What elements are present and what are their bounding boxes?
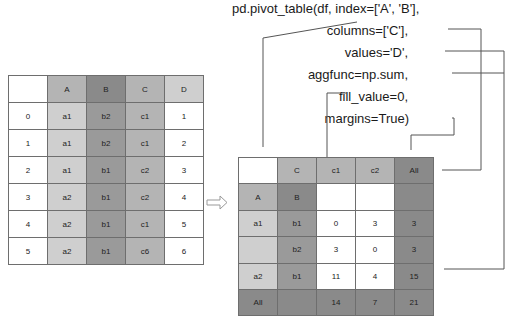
header-cell: All xyxy=(395,158,434,184)
cell xyxy=(395,184,434,210)
cell xyxy=(278,289,317,315)
cell: b1 xyxy=(278,210,317,236)
margins-row: All 14 7 21 xyxy=(239,289,434,315)
header-cell: c1 xyxy=(317,158,356,184)
cell: 11 xyxy=(317,263,356,289)
cell: 15 xyxy=(395,263,434,289)
cell: 21 xyxy=(395,289,434,315)
table-row: a1 b1 0 3 3 xyxy=(239,210,434,236)
cell xyxy=(239,237,278,263)
cell: a2 xyxy=(239,263,278,289)
hollow-right-arrow-icon xyxy=(207,196,227,209)
cell: a1 xyxy=(239,210,278,236)
header-cell: C xyxy=(278,158,317,184)
index-name-row: A B xyxy=(239,184,434,210)
cell: b2 xyxy=(278,237,317,263)
cell: All xyxy=(239,289,278,315)
table-header-row: C c1 c2 All xyxy=(239,158,434,184)
cell: 4 xyxy=(356,263,395,289)
table-row: a2 b1 11 4 15 xyxy=(239,263,434,289)
cell: b1 xyxy=(278,263,317,289)
cell: 0 xyxy=(356,237,395,263)
index-name-cell: B xyxy=(278,184,317,210)
cell: 3 xyxy=(395,210,434,236)
index-name-cell: A xyxy=(239,184,278,210)
cell xyxy=(317,184,356,210)
cell: 3 xyxy=(356,210,395,236)
cell: 14 xyxy=(317,289,356,315)
cell xyxy=(356,184,395,210)
cell: 7 xyxy=(356,289,395,315)
header-cell xyxy=(239,158,278,184)
pivot-result-table: C c1 c2 All A B a1 b1 0 3 3 b2 3 0 3 a2 … xyxy=(238,157,434,316)
header-cell: c2 xyxy=(356,158,395,184)
cell: 0 xyxy=(317,210,356,236)
table-row: b2 3 0 3 xyxy=(239,237,434,263)
cell: 3 xyxy=(395,237,434,263)
cell: 3 xyxy=(317,237,356,263)
